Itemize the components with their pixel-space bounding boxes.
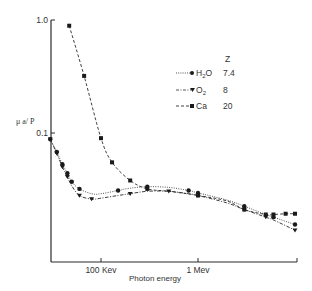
legend-header-z: Z [225,54,230,64]
square-marker-icon [99,136,103,140]
line-h2o [50,139,295,224]
square-marker-icon [293,212,297,216]
series-layer [48,24,298,233]
square-marker-icon [190,104,194,108]
y-tick-label-0.1: 0.1 [36,128,48,138]
square-marker-icon [264,213,268,217]
legend-z-o2: 8 [223,85,228,95]
legend-label-o2: O2 [196,85,207,96]
series-ca [67,24,297,217]
legend-label-h2o: H2O [196,68,212,79]
series-h2o [48,137,297,227]
square-marker-icon [110,160,114,164]
circle-marker-icon [77,187,81,191]
square-marker-icon [242,208,246,212]
circle-marker-icon [293,222,297,226]
legend-item-h2o: H2O 7.4 [176,68,235,79]
x-tick-label-1mev: 1 Mev [186,265,210,275]
legend-z-ca: 20 [223,101,233,111]
square-marker-icon [67,24,71,28]
circle-marker-icon [190,71,194,75]
line-o2 [50,139,295,230]
axes [51,20,297,262]
series-o2 [48,137,298,232]
square-marker-icon [196,193,200,197]
square-marker-icon [128,178,132,182]
triangle-marker-icon [60,165,65,169]
triangle-marker-icon [293,228,298,232]
legend-label-ca: Ca [196,101,207,111]
circle-marker-icon [65,171,69,175]
legend: Z H2O 7.4 O2 8 Ca 20 [176,54,235,111]
x-axis-label: Photon energy [129,274,181,283]
legend-item-ca: Ca 20 [176,101,233,111]
triangle-marker-icon [54,152,59,156]
legend-z-h2o: 7.4 [223,68,235,78]
circle-marker-icon [116,188,120,192]
circle-marker-icon [186,188,190,192]
y-axis-label: μ a/ P [16,117,35,126]
square-marker-icon [82,74,86,78]
legend-item-o2: O2 8 [176,85,228,96]
attenuation-chart: 1.0 0.1 μ a/ P 100 Kev 1 Mev Photon ener… [0,0,312,291]
line-ca [69,26,295,215]
square-marker-icon [271,213,275,217]
x-tick-label-100kev: 100 Kev [85,265,117,275]
triangle-marker-icon [77,194,82,198]
y-tick-label-1: 1.0 [36,15,48,25]
square-marker-icon [284,212,288,216]
square-marker-icon [145,187,149,191]
